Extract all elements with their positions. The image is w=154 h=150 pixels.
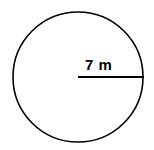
radius-length-label: 7 m (85, 57, 112, 72)
geometry-figure: 7 m (0, 0, 154, 150)
geometry-canvas (0, 0, 154, 150)
